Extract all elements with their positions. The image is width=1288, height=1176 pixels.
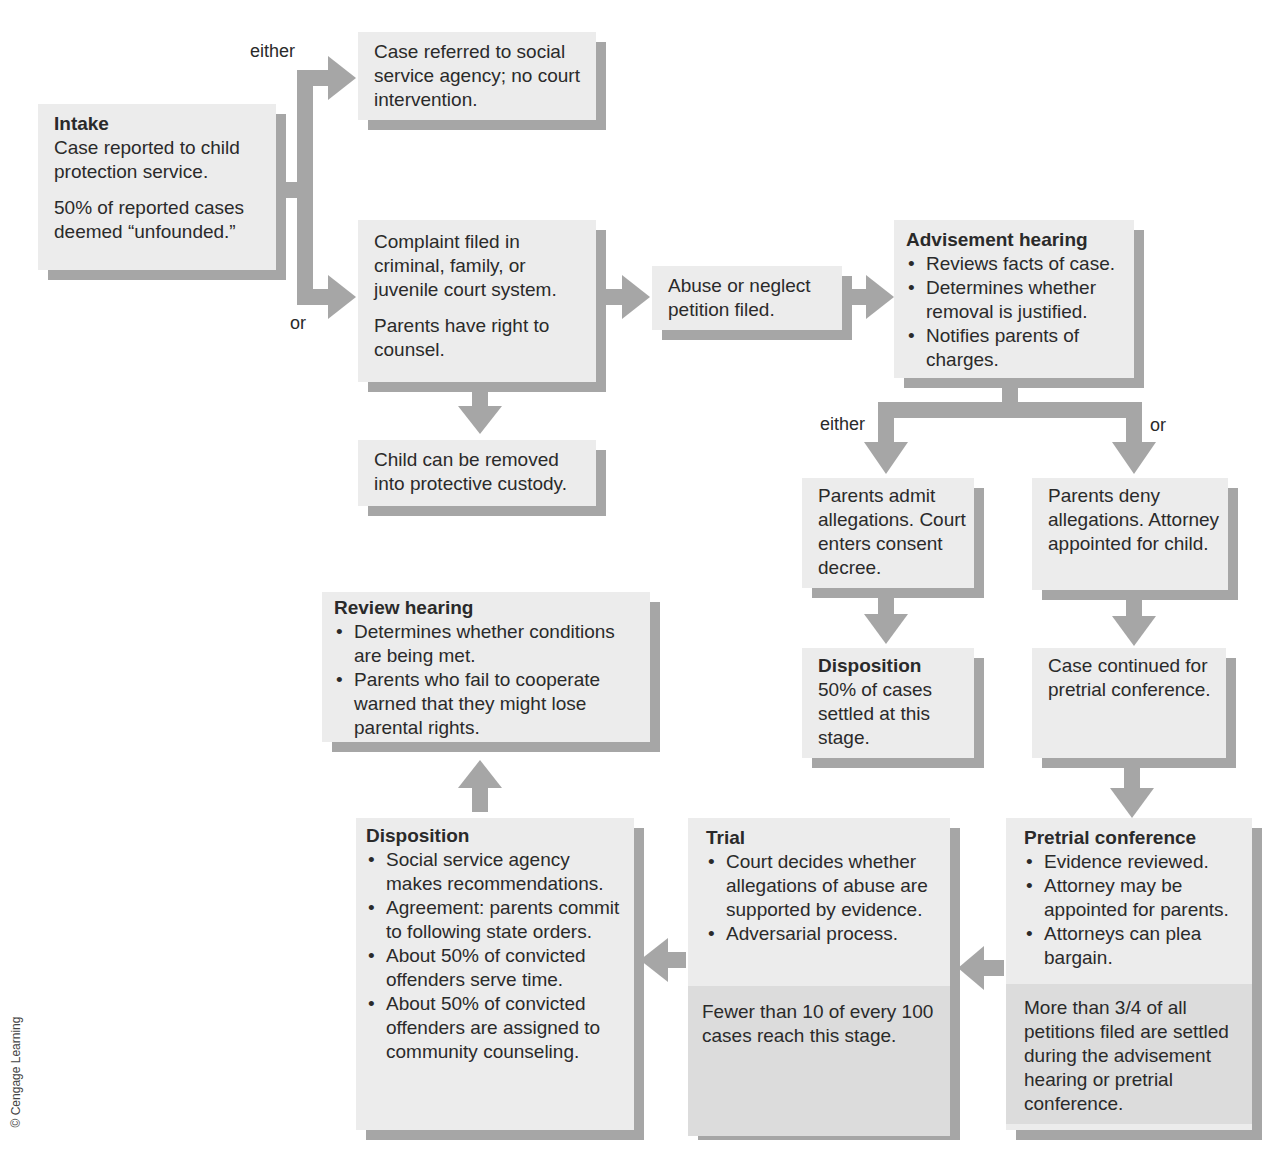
node-bullets: Determines whether conditions are being … (334, 620, 642, 740)
node-bullets: Evidence reviewed. Attorney may be appoi… (1024, 850, 1244, 970)
node-text: Abuse or neglect petition filed. (668, 274, 830, 322)
bullet-item: About 50% of convicted offenders are ass… (366, 992, 626, 1064)
node-pretrial-conference: Pretrial conference Evidence reviewed. A… (1006, 818, 1252, 1130)
node-trial: Trial Court decides whether allegations … (688, 818, 950, 1130)
node-title: Advisement hearing (906, 228, 1126, 252)
branch-label-either: either (820, 414, 865, 435)
node-note: 50% of reported cases deemed “unfounded.… (54, 196, 264, 244)
bullet-item: Adversarial process. (706, 922, 942, 946)
node-note-text: More than 3/4 of all petitions filed are… (1024, 996, 1244, 1116)
node-protective-custody: Child can be removed into protective cus… (358, 440, 596, 506)
bullet-item: Social service agency makes recommendati… (366, 848, 626, 896)
node-note: Fewer than 10 of every 100 cases reach t… (688, 986, 950, 1136)
flowchart: either or either or Intake Case reported… (0, 0, 1288, 1176)
bullet-item: Notifies parents of charges. (906, 324, 1126, 372)
node-text: Case reported to child protection servic… (54, 136, 264, 184)
node-title: Trial (706, 826, 942, 850)
bullet-item: Attorneys can plea bargain. (1024, 922, 1244, 970)
node-note: Parents have right to counsel. (374, 314, 584, 362)
node-text: Case continued for pretrial conference. (1048, 654, 1218, 702)
node-note: More than 3/4 of all petitions filed are… (1006, 984, 1252, 1124)
node-title: Review hearing (334, 596, 642, 620)
bullet-item: Attorney may be appointed for parents. (1024, 874, 1244, 922)
node-case-continued: Case continued for pretrial conference. (1032, 648, 1226, 758)
node-intake: Intake Case reported to child protection… (38, 104, 276, 270)
node-bullets: Social service agency makes recommendati… (366, 848, 626, 1064)
node-advisement-hearing: Advisement hearing Reviews facts of case… (894, 220, 1134, 378)
bullet-item: Evidence reviewed. (1024, 850, 1244, 874)
node-text: Child can be removed into protective cus… (374, 448, 584, 496)
bullet-item: Determines whether removal is justified. (906, 276, 1126, 324)
branch-label-or: or (1150, 415, 1166, 436)
bullet-item: Determines whether conditions are being … (334, 620, 642, 668)
node-social-service-referral: Case referred to social service agency; … (358, 32, 596, 120)
node-title: Disposition (818, 654, 966, 678)
node-text: Parents admit allegations. Court enters … (818, 484, 966, 580)
node-text: Parents deny allegations. Attorney appoi… (1048, 484, 1220, 556)
node-text: Case referred to social service agency; … (374, 40, 584, 112)
copyright-credit: © Cengage Learning (9, 1002, 23, 1142)
bullet-item: Parents who fail to cooperate warned tha… (334, 668, 642, 740)
node-complaint-filed: Complaint filed in criminal, family, or … (358, 220, 596, 382)
node-text: 50% of cases settled at this stage. (818, 678, 966, 750)
node-disposition-final: Disposition Social service agency makes … (356, 818, 634, 1130)
bullet-item: Court decides whether allegations of abu… (706, 850, 942, 922)
node-note-text: Fewer than 10 of every 100 cases reach t… (702, 1000, 942, 1048)
node-petition-filed: Abuse or neglect petition filed. (652, 266, 842, 330)
node-title: Disposition (366, 824, 626, 848)
branch-label-or: or (290, 313, 306, 334)
node-bullets: Court decides whether allegations of abu… (706, 850, 942, 946)
node-title: Pretrial conference (1024, 826, 1244, 850)
branch-label-either: either (250, 41, 295, 62)
node-text: Complaint filed in criminal, family, or … (374, 230, 584, 302)
node-parents-admit: Parents admit allegations. Court enters … (802, 478, 974, 588)
bullet-item: About 50% of convicted offenders serve t… (366, 944, 626, 992)
bullet-item: Agreement: parents commit to following s… (366, 896, 626, 944)
bullet-item: Reviews facts of case. (906, 252, 1126, 276)
node-parents-deny: Parents deny allegations. Attorney appoi… (1032, 478, 1228, 590)
node-bullets: Reviews facts of case. Determines whethe… (906, 252, 1126, 372)
node-disposition-early: Disposition 50% of cases settled at this… (802, 648, 974, 758)
node-review-hearing: Review hearing Determines whether condit… (322, 592, 650, 742)
node-title: Intake (54, 112, 264, 136)
